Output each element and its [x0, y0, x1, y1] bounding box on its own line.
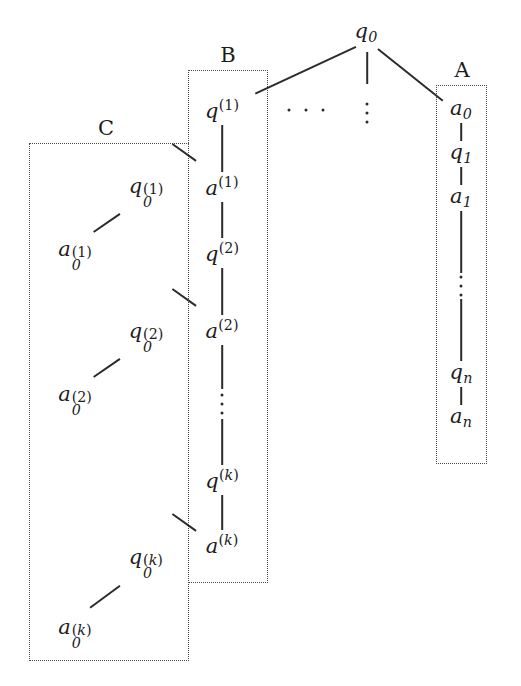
column-a-link-4: [460, 387, 462, 405]
branch-ellipsis-horizontal: [281, 109, 332, 112]
column-a-link-3: [460, 299, 462, 361]
column-b-link-0: [221, 125, 223, 172]
column-b-node-2: q(2): [205, 241, 239, 264]
column-a-link-2: [460, 211, 462, 273]
column-a-link-1: [460, 167, 462, 185]
column-c-a-node-1: a(2)0: [58, 384, 81, 405]
column-c-q-node-2: q(k)0: [129, 547, 153, 568]
column-b-node-3: a(2): [205, 318, 238, 341]
column-b-link-2: [221, 268, 223, 315]
edge-root-stem: [366, 52, 368, 84]
column-c-q-node-1: q(2)0: [129, 321, 153, 342]
column-a-vdots: [460, 270, 463, 303]
edge-root-to-b: [255, 46, 357, 95]
group-label-c: C: [98, 116, 114, 140]
root-node-q0: q0: [355, 21, 378, 44]
column-a-node-2: a1: [450, 186, 472, 209]
column-b-node-5: q(k): [205, 468, 239, 491]
column-b-link-1: [221, 202, 223, 238]
column-b-node-1: a(1): [205, 175, 238, 198]
column-a-node-0: a0: [450, 98, 472, 121]
column-a-node-4: qn: [450, 362, 473, 385]
column-b-link-5: [221, 495, 223, 530]
edge-root-to-a: [377, 48, 443, 101]
group-label-a: A: [454, 58, 469, 82]
column-c-q-node-0: q(1)0: [129, 176, 153, 197]
tree-diagram-figure: C B A q0 a0q1a1qnanq(1)a(1)q(2)a(2)q(k)a…: [0, 0, 521, 686]
column-a-node-5: an: [450, 406, 472, 429]
branch-ellipsis-vertical: [366, 97, 369, 130]
group-label-b: B: [220, 43, 235, 67]
column-b-node-0: q(1): [205, 98, 239, 121]
column-a-node-1: q1: [450, 142, 473, 165]
column-b-node-6: a(k): [206, 533, 239, 556]
column-c-a-node-0: a(1)0: [58, 239, 81, 260]
column-b-link-3: [221, 345, 223, 389]
column-b-link-4: [221, 419, 223, 465]
column-b-vdots: [221, 388, 224, 421]
column-c-a-node-2: a(k)0: [58, 617, 81, 638]
column-a-link-0: [460, 123, 462, 141]
